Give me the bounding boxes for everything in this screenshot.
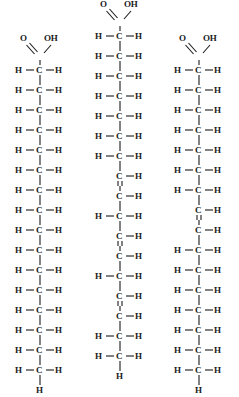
- carbon-label: C: [195, 300, 202, 320]
- chain-row-ch2: HCH: [159, 280, 239, 300]
- carbon-label: C: [36, 140, 43, 160]
- carbon-label: C: [36, 100, 43, 120]
- hydrogen-right-label: H: [214, 60, 221, 80]
- hydrogen-right-label: H: [135, 66, 142, 86]
- terminal-hydrogen-label: H: [195, 380, 202, 397]
- hydrogen-right-label: H: [55, 340, 62, 360]
- chain-row-ch2: HCH: [159, 260, 239, 280]
- carbon-label: C: [195, 280, 202, 300]
- carbon-label: C: [116, 66, 123, 86]
- hydrogen-left-label: H: [15, 160, 22, 180]
- hydrogen-left-label: H: [174, 60, 181, 80]
- hydrogen-right-label: H: [135, 146, 142, 166]
- hydrogen-left-label: H: [174, 180, 181, 200]
- molecule-saturated-fatty-acid: OOHHCHHCHHCHHCHHCHHCHHCHHCHHCHHCHHCHHCHH…: [0, 0, 80, 373]
- chain-row-ch2: HCH: [159, 120, 239, 140]
- hydrogen-right-label: H: [214, 340, 221, 360]
- chain-row-ch2: HCH: [0, 320, 80, 340]
- carbon-label: C: [36, 60, 43, 80]
- carbon-label: C: [36, 260, 43, 280]
- hydrogen-right-label: H: [214, 120, 221, 140]
- hydrogen-left-label: H: [15, 340, 22, 360]
- carbon-label: C: [116, 346, 123, 366]
- hydrogen-right-label: H: [55, 100, 62, 120]
- carbon-label: C: [195, 340, 202, 360]
- chain-row-ch: CH: [80, 186, 160, 206]
- chain-row-ch2: HCH: [0, 120, 80, 140]
- hydrogen-right-label: H: [214, 240, 221, 260]
- chain-row-ch2: HCH: [0, 240, 80, 260]
- hydrogen-left-label: H: [15, 140, 22, 160]
- hydroxyl-label: OH: [203, 34, 217, 43]
- hydrogen-left-label: H: [174, 300, 181, 320]
- carbon-label: C: [195, 320, 202, 340]
- chain-row-ch: CH: [80, 166, 160, 186]
- chain-row-ch2: HCH: [159, 180, 239, 200]
- chain-row-ch2: HCH: [0, 160, 80, 180]
- hydroxyl-label: OH: [124, 0, 138, 9]
- hydrogen-left-label: H: [15, 200, 22, 220]
- carbon-label: C: [195, 60, 202, 80]
- hydrogen-right-label: H: [55, 320, 62, 340]
- carbon-label: C: [36, 180, 43, 200]
- hydrogen-right-label: H: [135, 46, 142, 66]
- hydrogen-right-label: H: [214, 160, 221, 180]
- chain-row-ch: CH: [80, 306, 160, 326]
- carbon-label: C: [116, 106, 123, 126]
- molecule-chain: OOHHCHHCHHCHHCHHCHHCHHCHHCHHCHHCHHCHHCHH…: [0, 0, 80, 397]
- hydrogen-left-label: H: [15, 220, 22, 240]
- chain-row-ch2: HCH: [80, 126, 160, 146]
- carbon-label: C: [36, 200, 43, 220]
- carbon-label: C: [116, 146, 123, 166]
- hydrogen-left-label: H: [95, 326, 102, 346]
- chain-row-ch: CH: [80, 246, 160, 266]
- carbon-label: C: [116, 46, 123, 66]
- carboxyl-head-group: OOH: [80, 0, 160, 26]
- hydrogen-right-label: H: [55, 280, 62, 300]
- hydrogen-left-label: H: [95, 66, 102, 86]
- chain-row-ch2: HCH: [159, 360, 239, 380]
- carbon-label: C: [36, 320, 43, 340]
- chain-row-ch2: HCH: [80, 66, 160, 86]
- carbon-label: C: [116, 166, 123, 186]
- hydrogen-left-label: H: [95, 26, 102, 46]
- hydrogen-right-label: H: [214, 80, 221, 100]
- hydrogen-left-label: H: [174, 340, 181, 360]
- chain-row-ch2: HCH: [0, 180, 80, 200]
- carbon-label: C: [195, 120, 202, 140]
- chain-row-ch2: HCH: [0, 300, 80, 320]
- hydrogen-right-label: H: [135, 246, 142, 266]
- hydrogen-right-label: H: [55, 360, 62, 380]
- chain-row-ch: CH: [80, 286, 160, 306]
- carbon-label: C: [36, 280, 43, 300]
- hydrogen-right-label: H: [135, 26, 142, 46]
- hydrogen-right-label: H: [55, 140, 62, 160]
- hydrogen-left-label: H: [15, 260, 22, 280]
- carbon-label: C: [195, 100, 202, 120]
- carbon-label: C: [36, 360, 43, 380]
- chain-row-ch2: HCH: [80, 146, 160, 166]
- hydrogen-left-label: H: [95, 146, 102, 166]
- chain-row-ch2: HCH: [0, 80, 80, 100]
- chain-row-ch2: HCH: [159, 340, 239, 360]
- hydrogen-right-label: H: [55, 60, 62, 80]
- carbon-label: C: [116, 26, 123, 46]
- carbon-label: C: [195, 260, 202, 280]
- carbon-label: C: [36, 300, 43, 320]
- hydrogen-left-label: H: [174, 160, 181, 180]
- hydrogen-right-label: H: [135, 126, 142, 146]
- hydrogen-right-label: H: [55, 120, 62, 140]
- terminal-hydrogen-row: H: [159, 380, 239, 397]
- carbon-label: C: [36, 340, 43, 360]
- carbon-label: C: [195, 220, 202, 240]
- carboxyl-head-group: OOH: [0, 34, 80, 60]
- chain-row-ch: CH: [159, 220, 239, 240]
- hydrogen-left-label: H: [15, 60, 22, 80]
- carbon-label: C: [195, 360, 202, 380]
- chain-row-ch2: HCH: [0, 100, 80, 120]
- hydrogen-right-label: H: [214, 220, 221, 240]
- chain-row-ch2: HCH: [80, 266, 160, 286]
- hydrogen-right-label: H: [214, 320, 221, 340]
- chain-row-ch2: HCH: [0, 140, 80, 160]
- hydrogen-right-label: H: [135, 186, 142, 206]
